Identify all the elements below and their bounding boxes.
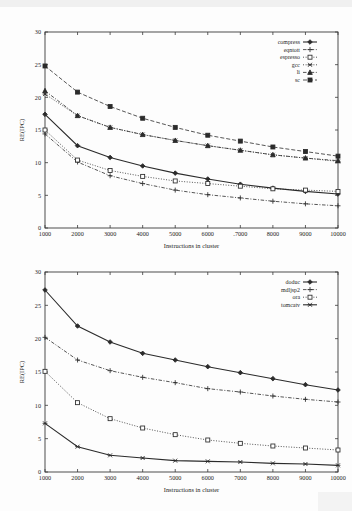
data-point-doduc-6	[238, 370, 243, 375]
data-point-sc-5	[206, 133, 210, 137]
y-tick-label-2: 10	[35, 402, 41, 409]
y-tick-label-6: 30	[35, 268, 41, 275]
data-point-eqntott-5	[205, 192, 210, 197]
data-point-espresso-7	[271, 187, 275, 191]
y-tick-label-0: 0	[38, 468, 41, 475]
data-point-mdljsp2-5	[205, 386, 210, 391]
data-point-tomcatv-8	[303, 462, 308, 466]
data-point-ora-2	[108, 417, 112, 421]
y-axis-title: RE(IPC)	[18, 361, 26, 383]
data-point-ora-9	[336, 448, 340, 452]
data-point-mdljsp2-9	[336, 400, 341, 405]
data-point-eqntott-9	[336, 203, 341, 208]
x-tick-label-1: 2000	[71, 230, 83, 237]
data-point-espresso-8	[303, 188, 307, 192]
y-tick-label-4: 20	[35, 94, 41, 101]
x-tick-label-5: 6000	[202, 474, 214, 481]
x-tick-label-8: 9000	[299, 230, 311, 237]
data-point-legend-gcc	[308, 63, 313, 67]
legend-label-espresso: espresso	[280, 54, 300, 60]
y-tick-label-2: 10	[35, 159, 41, 166]
data-point-mdljsp2-1	[75, 358, 80, 363]
x-tick-label-6: 7000	[234, 474, 246, 481]
series-line-tomcatv	[45, 423, 338, 465]
data-point-eqntott-6	[238, 195, 243, 200]
data-point-doduc-5	[205, 364, 210, 369]
data-point-tomcatv-2	[108, 453, 113, 457]
data-point-legend-li	[308, 70, 313, 75]
legend-label-eqntott: eqntott	[284, 47, 301, 53]
x-tick-label-4: 5000	[169, 230, 181, 237]
data-point-espresso-3	[141, 174, 145, 178]
series-li	[43, 88, 341, 162]
data-point-sc-9	[336, 154, 340, 158]
series-line-compress	[45, 114, 338, 194]
data-point-ora-0	[43, 369, 47, 373]
series-compress	[43, 112, 341, 196]
series-tomcatv	[43, 421, 341, 467]
series-espresso	[43, 128, 340, 193]
y-tick-label-3: 15	[35, 368, 41, 375]
data-point-mdljsp2-0	[43, 335, 48, 340]
data-point-legend-tomcatv	[308, 303, 313, 307]
data-point-tomcatv-7	[270, 461, 275, 465]
data-point-eqntott-4	[173, 188, 178, 193]
chart-canvas-top: 100020003000400050006000.700080009000100…	[0, 0, 352, 258]
x-tick-label-1: 2000	[71, 474, 83, 481]
data-point-li-9	[336, 158, 341, 163]
x-tick-label-9: 10000	[330, 230, 345, 237]
legend-label-li: li	[297, 69, 301, 75]
x-tick-label-7: 8000	[267, 230, 279, 237]
data-point-espresso-1	[76, 158, 80, 162]
chart-legend: doducmdljsp2oratomcatv	[281, 279, 317, 308]
series-line-gcc	[45, 94, 338, 161]
data-point-espresso-6	[238, 184, 242, 188]
y-tick-label-0: 0	[38, 224, 41, 231]
data-point-compress-3	[140, 164, 145, 169]
y-tick-label-3: 15	[35, 126, 41, 133]
data-point-doduc-4	[173, 358, 178, 363]
data-point-legend-sc	[308, 78, 312, 82]
data-point-ora-4	[173, 433, 177, 437]
document-page: 100020003000400050006000.700080009000100…	[0, 0, 352, 511]
data-point-sc-2	[108, 104, 112, 108]
data-point-ora-7	[271, 444, 275, 448]
data-point-compress-2	[108, 155, 113, 160]
data-point-sc-7	[271, 145, 275, 149]
data-point-compress-4	[173, 171, 178, 176]
legend-label-ora: ora	[292, 294, 300, 300]
data-point-doduc-8	[303, 382, 308, 387]
data-point-sc-6	[238, 139, 242, 143]
data-point-doduc-3	[140, 351, 145, 356]
series-mdljsp2	[43, 335, 341, 405]
data-point-eqntott-2	[108, 173, 113, 178]
data-point-espresso-2	[108, 169, 112, 173]
data-point-ora-1	[76, 401, 80, 405]
y-tick-label-5: 25	[35, 302, 41, 309]
y-tick-label-1: 5	[38, 435, 41, 442]
data-point-legend-doduc	[308, 280, 313, 285]
x-tick-label-7: 8000	[267, 474, 279, 481]
y-tick-label-1: 5	[38, 192, 41, 199]
data-point-tomcatv-3	[140, 456, 145, 460]
series-line-espresso	[45, 130, 338, 191]
series-gcc	[43, 92, 341, 163]
chart-figure-float-benchmarks: 1000200030004000500060007000800090001000…	[0, 258, 352, 511]
x-tick-label-4: 5000	[169, 474, 181, 481]
data-point-espresso-9	[336, 189, 340, 193]
data-point-sc-4	[173, 125, 177, 129]
data-point-mdljsp2-2	[108, 368, 113, 373]
y-tick-label-6: 30	[35, 28, 41, 35]
data-point-mdljsp2-6	[238, 390, 243, 395]
data-point-doduc-7	[271, 376, 276, 381]
data-point-ora-8	[303, 446, 307, 450]
y-tick-label-5: 25	[35, 61, 41, 68]
data-point-legend-compress	[308, 40, 313, 45]
x-tick-label-2: 3000	[104, 230, 116, 237]
data-point-mdljsp2-7	[270, 394, 275, 399]
data-point-ora-3	[141, 426, 145, 430]
data-point-eqntott-3	[140, 181, 145, 186]
data-point-compress-5	[205, 177, 210, 182]
series-line-ora	[45, 371, 338, 450]
data-point-sc-0	[43, 64, 47, 68]
